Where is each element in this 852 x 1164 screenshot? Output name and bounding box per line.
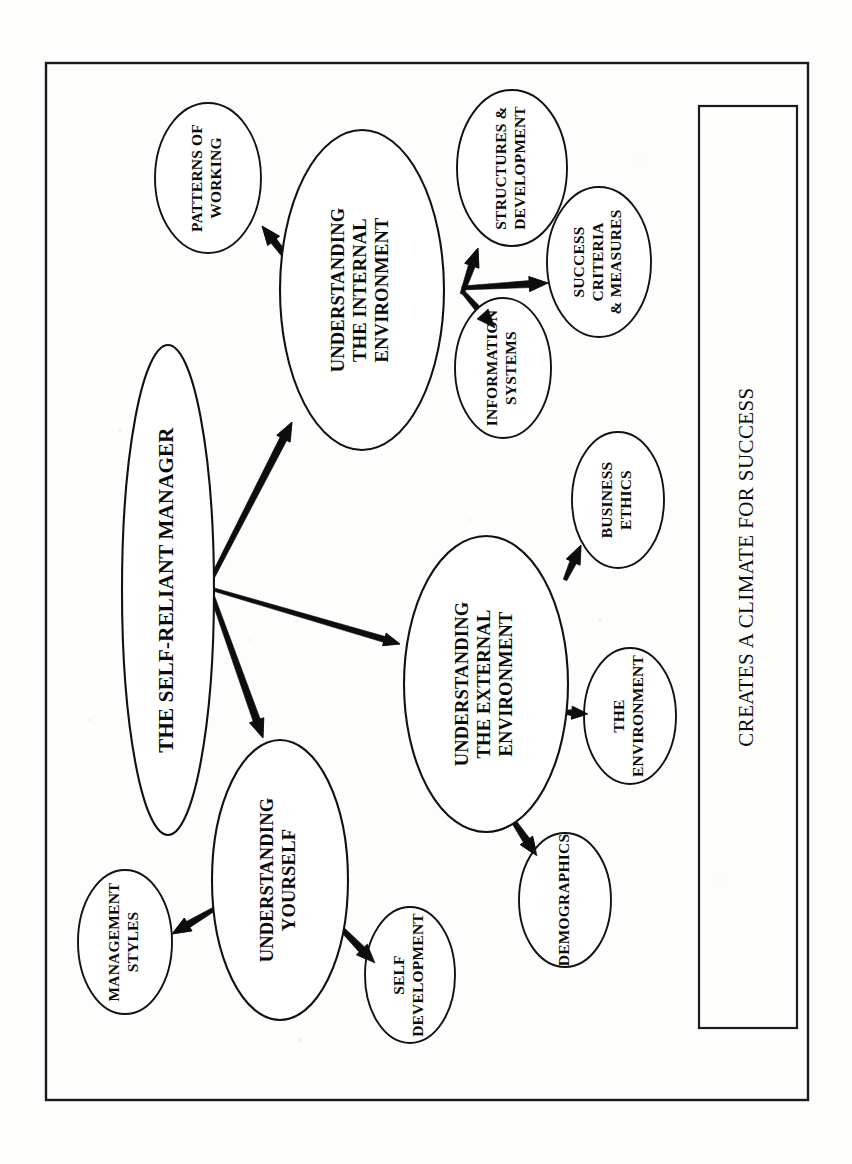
node-management-styles[interactable]: MANAGEMENTSTYLES (78, 870, 172, 1014)
banner-layer: CREATES A CLIMATE FOR SUCCESS (734, 387, 758, 746)
node-label-line: ENVIRONMENT (629, 655, 646, 777)
arrowhead-root-to-yourself (250, 718, 264, 738)
node-label-line: & MEASURES (607, 210, 624, 315)
node-label-line: SUCCESS (570, 226, 587, 297)
node-information-systems[interactable]: INFORMATIONSYSTEMS (455, 298, 551, 438)
climate-banner-label-group: CREATES A CLIMATE FOR SUCCESS (734, 387, 758, 746)
node-label-line: ENVIRONMENT (372, 217, 392, 363)
node-label-line: WORKING (207, 137, 224, 219)
node-label-line: ENVIRONMENT (496, 611, 516, 757)
node-label-group: BUSINESSETHICS (598, 462, 633, 539)
node-label-line: UNDERSTANDING (257, 798, 277, 963)
node-label-line: THE (610, 699, 627, 732)
nodes-layer: THE SELF-RELIANT MANAGERUNDERSTANDINGTHE… (78, 90, 676, 1043)
node-label-line: DEVELOPMENT (409, 913, 426, 1037)
arrow-root-to-internal (208, 422, 292, 583)
climate-banner-label: CREATES A CLIMATE FOR SUCCESS (734, 387, 758, 746)
node-label-group: UNDERSTANDINGTHE INTERNALENVIRONMENT (328, 208, 392, 373)
diagram-canvas: THE SELF-RELIANT MANAGERUNDERSTANDINGTHE… (0, 0, 852, 1164)
node-label-group: UNDERSTANDINGTHE EXTERNALENVIRONMENT (452, 602, 516, 767)
node-patterns-of-working[interactable]: PATTERNS OFWORKING (155, 103, 261, 253)
node-label-line: UNDERSTANDING (328, 208, 348, 373)
node-self-reliant-manager[interactable]: THE SELF-RELIANT MANAGER (122, 345, 214, 835)
node-success-criteria-and-measures[interactable]: SUCCESSCRITERIA& MEASURES (547, 187, 651, 337)
node-label-line: INFORMATION (483, 310, 500, 426)
arrowhead-external-to-ethics (566, 545, 581, 565)
node-label-line: STYLES (124, 912, 141, 973)
node-label-line: YOURSELF (279, 829, 299, 931)
node-label-group: THE SELF-RELIANT MANAGER (154, 427, 178, 753)
arrow-root-to-yourself (210, 594, 264, 738)
node-label-line: SYSTEMS (502, 331, 519, 405)
arrow-root-to-external (212, 587, 400, 645)
node-label-line: DEVELOPMENT (511, 106, 528, 230)
node-the-environment[interactable]: THEENVIRONMENT (584, 648, 676, 784)
node-understanding-yourself[interactable]: UNDERSTANDINGYOURSELF (212, 740, 348, 1020)
diagram-page: THE SELF-RELIANT MANAGERUNDERSTANDINGTHE… (0, 0, 852, 1164)
arrowhead-root-to-external (383, 633, 400, 645)
node-label-group: DEMOGRAPHICS (555, 834, 572, 966)
node-label-line: BUSINESS (598, 462, 615, 539)
arrowhead-internal-to-structures (465, 248, 479, 268)
arrowhead-internal-to-success (529, 277, 548, 292)
node-self-development[interactable]: SELFDEVELOPMENT (365, 907, 455, 1043)
node-label-line: THE EXTERNAL (474, 610, 494, 759)
node-label-line: PATTERNS OF (188, 124, 205, 232)
node-structures-and-development[interactable]: STRUCTURES &DEVELOPMENT (457, 90, 567, 246)
node-label-group: STRUCTURES &DEVELOPMENT (492, 106, 527, 230)
node-understanding-external-environment[interactable]: UNDERSTANDINGTHE EXTERNALENVIRONMENT (404, 536, 568, 832)
node-label-line: UNDERSTANDING (452, 602, 472, 767)
node-label-line: ETHICS (617, 470, 634, 530)
node-label-line: THE INTERNAL (350, 218, 370, 362)
node-label-line: STRUCTURES & (492, 106, 509, 229)
node-understanding-internal-environment[interactable]: UNDERSTANDINGTHE INTERNALENVIRONMENT (280, 130, 444, 450)
node-label-line: SELF (390, 955, 407, 995)
node-label-line: MANAGEMENT (105, 882, 122, 1002)
node-label-line: THE SELF-RELIANT MANAGER (154, 427, 178, 753)
node-label-line: DEMOGRAPHICS (555, 834, 572, 966)
node-label-group: PATTERNS OFWORKING (188, 124, 223, 232)
node-label-line: CRITERIA (589, 222, 606, 302)
node-business-ethics[interactable]: BUSINESSETHICS (572, 432, 664, 568)
